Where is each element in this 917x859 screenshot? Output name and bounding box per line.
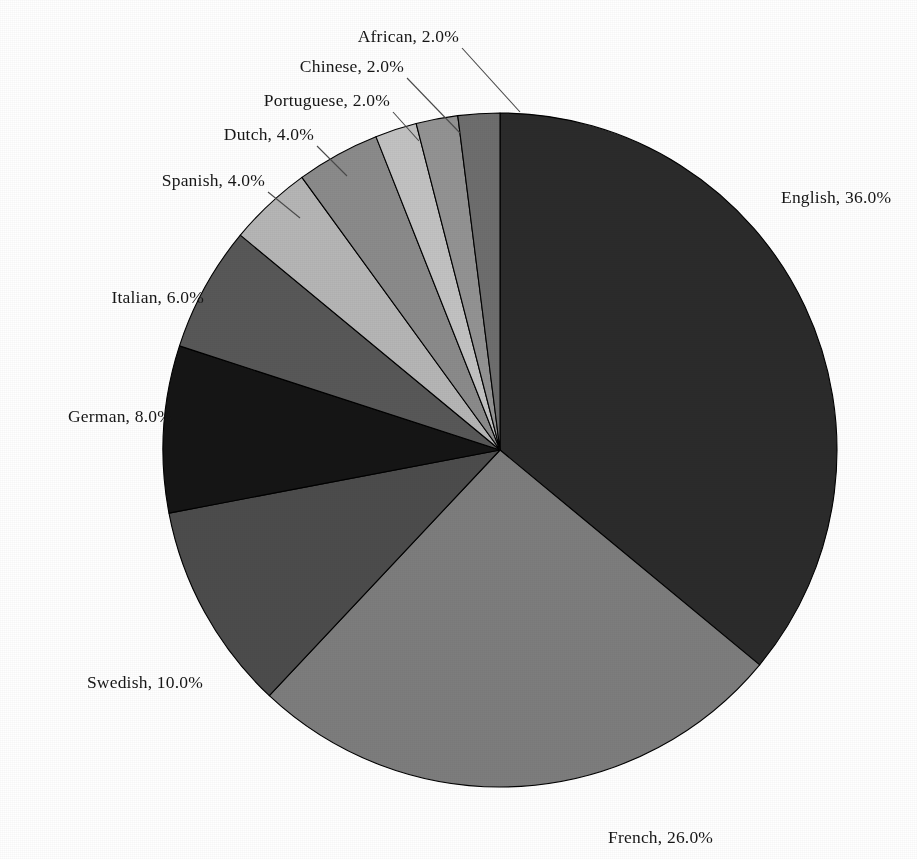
slice-label-african: African, 2.0% <box>358 26 459 46</box>
slice-label-portuguese: Portuguese, 2.0% <box>264 90 390 110</box>
pie-chart-svg: English, 36.0%French, 26.0%Swedish, 10.0… <box>0 0 917 859</box>
slice-label-german: German, 8.0% <box>68 406 172 426</box>
slice-label-chinese: Chinese, 2.0% <box>300 56 404 76</box>
slice-label-italian: Italian, 6.0% <box>111 287 204 307</box>
pie-slices-group <box>163 113 837 787</box>
slice-label-french: French, 26.0% <box>608 827 713 847</box>
pie-chart-figure: English, 36.0%French, 26.0%Swedish, 10.0… <box>0 0 917 859</box>
slice-label-swedish: Swedish, 10.0% <box>87 672 203 692</box>
slice-label-dutch: Dutch, 4.0% <box>224 124 314 144</box>
slice-label-english: English, 36.0% <box>781 187 891 207</box>
slice-label-spanish: Spanish, 4.0% <box>162 170 265 190</box>
